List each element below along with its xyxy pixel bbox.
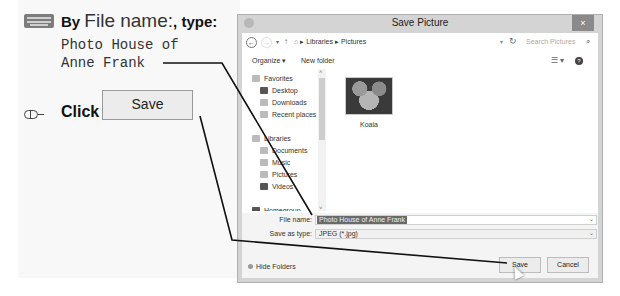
back-button[interactable]: ← <box>246 37 257 48</box>
nav-pane-scrollbar[interactable]: ˄ ˅ <box>318 69 326 211</box>
refresh-button[interactable]: ↻ <box>509 36 517 46</box>
file-name-selected-text: Photo House of Anne Frank <box>317 216 407 224</box>
breadcrumb-libraries[interactable]: Libraries <box>306 38 333 45</box>
downloads-icon <box>260 99 268 106</box>
libraries-icon <box>252 135 260 142</box>
forward-button[interactable]: → <box>261 37 272 48</box>
file-list: Koala <box>330 69 598 211</box>
step1-instruction: By File name:, type: <box>61 10 217 32</box>
up-button[interactable]: ↑ <box>284 37 288 46</box>
recent-places-icon <box>260 111 268 118</box>
nav-favorites[interactable]: Favorites <box>252 74 293 84</box>
address-dropdown[interactable]: ▾ <box>500 38 503 45</box>
koala-thumbnail[interactable] <box>345 77 393 115</box>
dialog-footer: Hide Folders Save Cancel <box>242 253 598 278</box>
documents-icon <box>260 147 268 154</box>
search-placeholder: Search Pictures <box>526 38 575 45</box>
cancel-button[interactable]: Cancel <box>547 257 589 273</box>
desktop-icon <box>260 87 268 94</box>
scroll-up-icon[interactable]: ˄ <box>319 69 323 75</box>
save-type-value: JPEG (*.jpg) <box>319 230 358 238</box>
help-icon[interactable]: ? <box>575 57 583 65</box>
collapse-icon <box>248 264 253 269</box>
dialog-client: ← → ▾ ↑ ⌂ ▸ Libraries ▸ Pictures ▾ ↻ Sea… <box>242 33 598 278</box>
chevron-down-icon[interactable]: ⌄ <box>589 215 594 222</box>
star-icon <box>252 75 260 82</box>
videos-icon <box>260 183 268 190</box>
chevron-down-icon[interactable]: ⌄ <box>589 229 594 236</box>
new-folder-button[interactable]: New folder <box>301 57 334 64</box>
homegroup-icon <box>252 207 260 211</box>
file-name-label: File name: <box>242 216 312 223</box>
file-name-label[interactable]: Koala <box>345 121 393 128</box>
nav-recent-places[interactable]: Recent places <box>260 110 316 120</box>
file-name-input[interactable]: Photo House of Anne Frank ⌄ <box>315 215 597 225</box>
keyboard-icon <box>24 14 54 28</box>
scrollbar-thumb[interactable] <box>319 78 325 140</box>
nav-desktop[interactable]: Desktop <box>260 86 298 96</box>
nav-documents[interactable]: Documents <box>260 146 307 156</box>
nav-downloads[interactable]: Downloads <box>260 98 307 108</box>
music-icon <box>260 159 268 166</box>
nav-videos[interactable]: Videos <box>260 182 293 192</box>
dialog-title: Save Picture <box>238 17 602 28</box>
navigation-pane: Favorites Desktop Downloads Recent place… <box>242 69 326 211</box>
title-bar: Save Picture × <box>238 15 602 33</box>
close-button[interactable]: × <box>572 15 594 31</box>
recent-locations-dropdown[interactable]: ▾ <box>276 38 279 45</box>
save-fields: File name: Photo House of Anne Frank ⌄ S… <box>242 213 598 253</box>
breadcrumb: ⌂ ▸ Libraries ▸ Pictures <box>294 38 366 46</box>
organize-menu[interactable]: Organize ▾ <box>252 57 286 65</box>
pictures-icon <box>260 171 268 178</box>
nav-pictures[interactable]: Pictures <box>260 170 297 180</box>
typed-text-instruction: Photo House of Anne Frank <box>61 36 179 72</box>
save-type-select[interactable]: JPEG (*.jpg) ⌄ <box>315 229 597 239</box>
crumb-sep: ▸ <box>300 38 304 45</box>
hide-folders-toggle[interactable]: Hide Folders <box>248 263 296 270</box>
breadcrumb-pictures[interactable]: Pictures <box>341 38 366 45</box>
nav-homegroup[interactable]: Homegroup <box>252 206 301 211</box>
command-bar: Organize ▾ New folder ☰ ▾ ? <box>242 54 598 69</box>
save-picture-dialog: Save Picture × ← → ▾ ↑ ⌂ ▸ Libraries ▸ P… <box>237 14 603 283</box>
nav-music[interactable]: Music <box>260 158 290 168</box>
click-instruction: Click <box>61 103 99 121</box>
navigation-bar: ← → ▾ ↑ ⌂ ▸ Libraries ▸ Pictures ▾ ↻ Sea… <box>242 33 598 53</box>
search-input[interactable]: Search Pictures ⌕ <box>520 35 594 50</box>
save-button-callout: Save <box>102 90 193 120</box>
mouse-icon <box>24 110 38 119</box>
nav-libraries[interactable]: Libraries <box>252 134 291 144</box>
crumb-sep: ▸ <box>335 38 339 45</box>
search-icon[interactable]: ⌕ <box>586 37 590 47</box>
mouse-cord <box>38 114 44 115</box>
view-options-button[interactable]: ☰ ▾ <box>551 56 564 65</box>
scroll-down-icon[interactable]: ˅ <box>319 205 323 211</box>
save-type-label: Save as type: <box>242 230 312 237</box>
